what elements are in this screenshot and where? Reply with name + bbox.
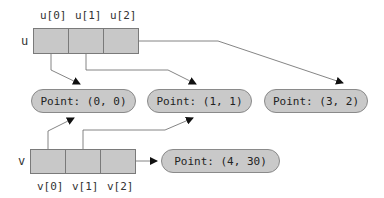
point-object-1-1: Point: (1, 1) (147, 89, 252, 113)
arrow-u2 (120, 41, 343, 83)
u2-index-label: u[2] (110, 10, 137, 22)
point-object-3-2: Point: (3, 2) (264, 89, 368, 113)
v-variable-name: v (18, 155, 25, 167)
u1-index-label: u[1] (75, 10, 102, 22)
v1-index-label: v[1] (72, 181, 99, 193)
u0-index-label: u[0] (40, 10, 67, 22)
array-v (30, 149, 136, 174)
v2-index-label: v[2] (107, 181, 134, 193)
point-object-4-30: Point: (4, 30) (161, 149, 280, 173)
u-cell-2 (104, 29, 138, 53)
point-object-0-0: Point: (0, 0) (31, 89, 136, 113)
v-cell-2 (101, 150, 135, 173)
u-cell-1 (69, 29, 104, 53)
diagram: u[0] u[1] u[2] u Point: (0, 0) Point: (1… (0, 0, 384, 198)
v-cell-1 (66, 150, 101, 173)
u-variable-name: u (21, 35, 28, 47)
v0-index-label: v[0] (37, 181, 64, 193)
u-cell-0 (34, 29, 69, 53)
v-cell-0 (31, 150, 66, 173)
array-u (33, 28, 139, 54)
